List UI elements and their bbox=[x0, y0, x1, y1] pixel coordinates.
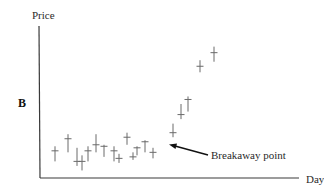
price-bar bbox=[111, 146, 118, 161]
price-bar bbox=[65, 134, 72, 152]
price-bar bbox=[142, 140, 149, 152]
price-bar bbox=[124, 133, 131, 145]
price-bar bbox=[170, 124, 177, 138]
price-bars bbox=[52, 47, 218, 171]
price-bar bbox=[197, 60, 204, 72]
price-bar bbox=[185, 96, 192, 111]
price-bar bbox=[178, 104, 185, 119]
price-bar bbox=[74, 148, 81, 166]
y-axis bbox=[39, 26, 40, 178]
price-bar bbox=[52, 146, 59, 161]
price-bar bbox=[150, 148, 157, 159]
price-bar bbox=[79, 155, 86, 170]
price-bar bbox=[134, 146, 141, 155]
breakaway-arrow bbox=[169, 144, 208, 156]
price-bar bbox=[85, 146, 92, 161]
price-bar bbox=[93, 134, 100, 152]
price-bar bbox=[116, 154, 123, 163]
price-bar bbox=[101, 145, 108, 157]
price-bar bbox=[211, 47, 218, 62]
price-bar bbox=[130, 152, 137, 160]
